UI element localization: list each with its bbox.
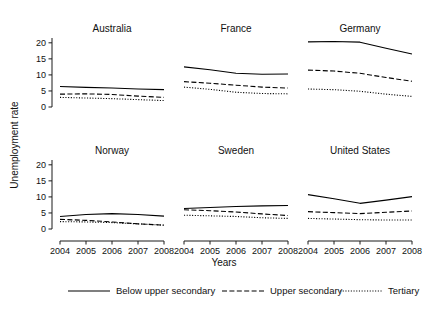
series-line-solid — [60, 86, 164, 89]
series-line-dotted — [60, 97, 164, 100]
x-tick-label: 2005 — [200, 246, 220, 256]
chart-legend: Below upper secondaryUpper secondaryTert… — [68, 285, 419, 296]
y-tick-label: 0 — [41, 224, 46, 234]
series-line-solid — [308, 42, 412, 55]
panel-germany: Germany — [308, 23, 412, 96]
x-tick-label: 2006 — [102, 246, 122, 256]
panel-sweden: Sweden20042005200620072008 — [174, 145, 298, 256]
series-line-solid — [184, 206, 288, 209]
panel-title-australia: Australia — [93, 23, 132, 34]
x-tick-label: 2004 — [298, 246, 318, 256]
x-tick-label: 2007 — [252, 246, 272, 256]
series-line-dotted — [308, 218, 412, 220]
panel-title-norway: Norway — [95, 145, 129, 156]
series-line-dashed — [184, 82, 288, 88]
series-line-dashed — [184, 210, 288, 216]
y-tick-label: 15 — [36, 176, 46, 186]
x-tick-label: 2005 — [324, 246, 344, 256]
legend-label-dashed: Upper secondary — [270, 285, 343, 296]
series-line-solid — [60, 214, 164, 217]
panel-title-united-states: United States — [330, 145, 390, 156]
y-tick-label: 20 — [36, 38, 46, 48]
unemployment-rate-small-multiples-chart: Australia05101520FranceGermanyNorway0510… — [0, 0, 448, 312]
chart-figure: Australia05101520FranceGermanyNorway0510… — [0, 0, 448, 312]
x-axis-title: Years — [211, 257, 236, 268]
series-line-dotted — [308, 89, 412, 96]
x-tick-label: 2008 — [278, 246, 298, 256]
series-line-dashed — [308, 70, 412, 81]
panel-title-sweden: Sweden — [218, 145, 254, 156]
y-tick-label: 10 — [36, 192, 46, 202]
x-tick-label: 2004 — [50, 246, 70, 256]
legend-label-dotted: Tertiary — [388, 285, 419, 296]
x-tick-label: 2004 — [174, 246, 194, 256]
y-tick-label: 15 — [36, 54, 46, 64]
panel-norway: Norway0510152020042005200620072008 — [36, 145, 174, 256]
panel-australia: Australia05101520 — [36, 23, 164, 112]
y-tick-label: 5 — [41, 86, 46, 96]
series-line-dotted — [60, 222, 164, 226]
y-axis-title: Unemployment rate — [9, 101, 20, 189]
x-tick-label: 2008 — [154, 246, 174, 256]
series-line-solid — [184, 67, 288, 74]
series-line-solid — [308, 195, 412, 204]
x-tick-label: 2006 — [226, 246, 246, 256]
x-tick-label: 2007 — [376, 246, 396, 256]
series-line-dotted — [184, 215, 288, 218]
y-tick-label: 20 — [36, 160, 46, 170]
legend-label-solid: Below upper secondary — [116, 285, 216, 296]
panel-france: France — [184, 23, 288, 94]
y-tick-label: 5 — [41, 208, 46, 218]
x-tick-label: 2006 — [350, 246, 370, 256]
x-tick-label: 2005 — [76, 246, 96, 256]
panel-title-germany: Germany — [339, 23, 380, 34]
y-tick-label: 10 — [36, 70, 46, 80]
series-line-dashed — [308, 211, 412, 214]
series-line-dotted — [184, 87, 288, 94]
x-tick-label: 2008 — [402, 246, 422, 256]
x-tick-label: 2007 — [128, 246, 148, 256]
panel-united-states: United States20042005200620072008 — [298, 145, 422, 256]
panel-title-france: France — [220, 23, 252, 34]
y-tick-label: 0 — [41, 102, 46, 112]
series-line-dashed — [60, 94, 164, 98]
